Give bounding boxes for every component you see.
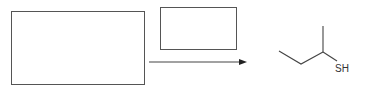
reaction-graphics (0, 0, 366, 87)
product-skeletal-structure (279, 26, 337, 64)
thiol-group-label: SH (335, 63, 349, 74)
reaction-arrow (149, 59, 247, 65)
